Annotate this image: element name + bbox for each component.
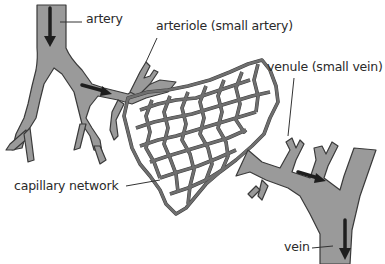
venule-label: venule (small vein) [267,61,383,74]
arteriole-label: arteriole (small artery) [156,20,293,33]
artery-vessel [6,5,176,164]
venule-leader-line [288,78,294,136]
vein-label: vein [284,241,310,254]
arteriole-leader-line [146,38,157,62]
artery-label: artery [86,13,123,26]
blood-vessel-diagram [0,0,385,264]
capillary-network-label: capillary network [14,180,118,193]
